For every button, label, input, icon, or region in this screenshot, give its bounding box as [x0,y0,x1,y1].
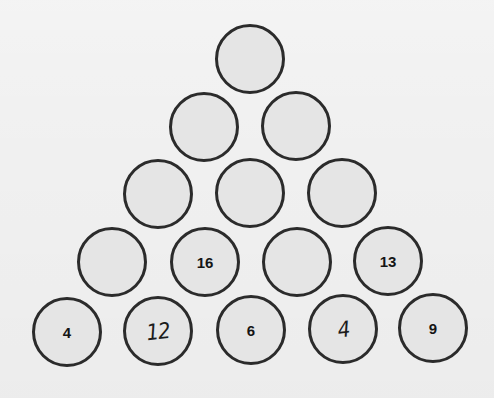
pyramid-cell-r5-c5[interactable]: 9 [398,293,468,363]
pyramid-cell-r4-c2[interactable]: 16 [170,227,240,297]
cell-value: 6 [247,322,255,339]
pyramid-cell-r1-c1[interactable] [215,24,285,94]
pyramid-cell-r3-c2[interactable] [215,158,285,228]
cell-value: 9 [429,320,437,337]
cell-value: 13 [380,253,397,270]
pyramid-cell-r5-c4[interactable]: 4 [308,294,378,364]
pyramid-cell-r4-c1[interactable] [77,227,147,297]
pyramid-cell-r4-c3[interactable] [262,227,332,297]
handwritten-cell-value: 12 [145,317,171,344]
cell-value: 16 [197,254,214,271]
pyramid-cell-r3-c3[interactable] [307,158,377,228]
pyramid-cell-r5-c3[interactable]: 6 [216,295,286,365]
pyramid-cell-r2-c2[interactable] [261,91,331,161]
pyramid-cell-r2-c1[interactable] [169,92,239,162]
pyramid-cell-r3-c1[interactable] [123,159,193,229]
worksheet-paper: 16 13 4 12 6 4 9 [0,0,494,398]
handwritten-cell-value: 4 [336,316,350,342]
cell-value: 4 [63,324,71,341]
pyramid-cell-r5-c1[interactable]: 4 [32,297,102,367]
pyramid-cell-r5-c2[interactable]: 12 [123,296,193,366]
pyramid-cell-r4-c4[interactable]: 13 [353,226,423,296]
